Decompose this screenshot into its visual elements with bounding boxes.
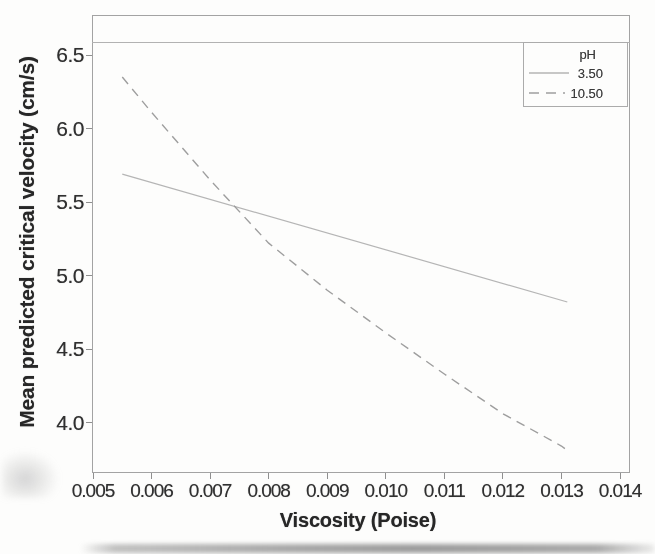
legend-entry-label: 10.50 [570,86,627,101]
legend-entry-label: 3.50 [570,66,627,81]
y-tick-mark [86,128,92,129]
x-tick-mark [385,473,386,479]
x-tick-label: 0.010 [358,481,414,500]
legend-swatch-dashed-line [528,91,570,95]
x-tick-label: 0.008 [241,481,297,500]
y-tick-mark [86,422,92,423]
x-tick-label: 0.007 [182,481,238,500]
x-axis-title: Viscosity (Poise) [280,509,436,532]
legend-swatch-solid-line [528,71,570,75]
legend-title: pH [524,47,627,63]
x-tick-mark [268,473,269,479]
legend-box: pH 3.5010.50 [523,42,628,107]
x-tick-label: 0.012 [475,481,531,500]
y-tick-label: 4.0 [34,412,84,433]
chart-figure: 4.04.55.05.56.06.5 0.0050.0060.0070.0080… [0,0,655,554]
series-line-ph-3-50 [122,174,567,302]
y-tick-label: 6.5 [34,44,84,65]
x-tick-mark [151,473,152,479]
y-tick-mark [86,349,92,350]
x-tick-mark [502,473,503,479]
y-tick-label: 5.5 [34,191,84,212]
y-tick-mark [86,275,92,276]
y-tick-label: 6.0 [34,118,84,139]
legend-entry: 3.50 [524,63,627,83]
series-line-ph-10-50 [122,77,567,450]
y-tick-mark [86,202,92,203]
scan-artifact-bottom-band [80,544,655,553]
scan-artifact-smudge [2,450,60,498]
x-tick-mark [93,473,94,479]
x-tick-label: 0.006 [124,481,180,500]
x-tick-mark [444,473,445,479]
x-tick-label: 0.005 [65,481,121,500]
y-tick-label: 5.0 [34,265,84,286]
legend-entries: 3.5010.50 [524,63,627,103]
x-tick-label: 0.011 [416,481,472,500]
x-tick-mark [327,473,328,479]
x-tick-label: 0.014 [592,481,648,500]
x-tick-label: 0.009 [299,481,355,500]
x-tick-mark [561,473,562,479]
y-tick-mark [86,55,92,56]
x-tick-mark [620,473,621,479]
x-tick-mark [210,473,211,479]
x-tick-label: 0.013 [533,481,589,500]
y-axis-title: Mean predicted critical velocity (cm/s) [15,56,39,428]
scanned-chart-page: 4.04.55.05.56.06.5 0.0050.0060.0070.0080… [0,0,655,554]
legend-entry: 10.50 [524,83,627,103]
y-tick-label: 4.5 [34,338,84,359]
